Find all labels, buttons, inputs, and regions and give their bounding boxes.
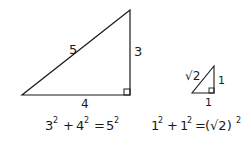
eq-equals: =	[94, 118, 105, 133]
seq-c: (√2)	[205, 118, 232, 133]
small-triangle: √2 1 1	[185, 66, 225, 109]
small-vertical-leg-label: 1	[218, 74, 225, 87]
pythagorean-diagram: 5 3 4 3 2 + 4 2 = 5 2 √2 1 1 1 2 + 1 2 =…	[0, 0, 251, 151]
small-horizontal-leg-label: 1	[205, 96, 212, 109]
large-equation: 3 2 + 4 2 = 5 2	[45, 116, 119, 133]
eq-a-exp: 2	[53, 116, 58, 125]
seq-c-exp: 2	[236, 116, 241, 125]
small-equation: 1 2 + 1 2 = (√2) 2	[151, 116, 241, 133]
hypotenuse-label: 5	[69, 42, 77, 57]
right-angle-marker	[124, 89, 130, 95]
small-hypotenuse-label: √2	[185, 69, 200, 83]
large-triangle: 5 3 4	[22, 10, 142, 111]
vertical-leg-label: 3	[134, 44, 142, 59]
eq-b-exp: 2	[84, 116, 89, 125]
seq-plus: +	[167, 118, 178, 133]
horizontal-leg-label: 4	[81, 97, 89, 111]
eq-plus: +	[63, 118, 74, 133]
small-right-angle-marker	[209, 88, 214, 93]
seq-b-exp: 2	[187, 116, 192, 125]
seq-a-exp: 2	[158, 116, 163, 125]
eq-c-exp: 2	[114, 116, 119, 125]
